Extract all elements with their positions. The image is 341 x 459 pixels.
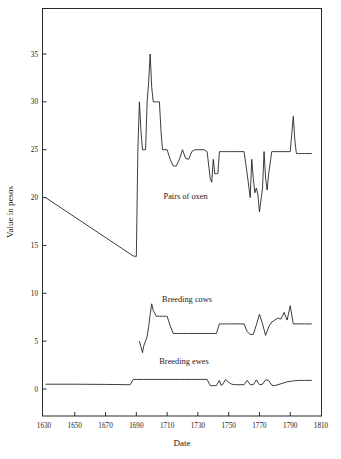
line-chart-canvas: 05101520253035 1630165016701690171017301… (0, 0, 341, 459)
x-tick-label: 1650 (68, 422, 83, 430)
y-tick-label: 10 (31, 290, 39, 298)
x-axis-title: Date (174, 438, 191, 448)
series-label-breeding-cows: Breeding cows (162, 295, 212, 304)
x-tick-label: 1730 (191, 422, 206, 430)
series-label-pairs-of-oxen: Pairs of oxen (163, 192, 208, 201)
x-tick-label: 1630 (37, 422, 52, 430)
y-tick-label: 30 (31, 98, 39, 106)
series-label-breeding-ewes: Breeding ewes (159, 357, 209, 366)
y-tick-label: 0 (34, 386, 38, 394)
x-tick-label: 1790 (283, 422, 298, 430)
chart-background (0, 0, 341, 459)
x-tick-label: 1750 (221, 422, 236, 430)
y-tick-label: 5 (34, 338, 38, 346)
x-tick-label: 1810 (314, 422, 329, 430)
y-axis-title: Value in pesos (5, 186, 15, 238)
x-tick-label: 1670 (98, 422, 113, 430)
x-tick-label: 1690 (129, 422, 144, 430)
chart-figure: 05101520253035 1630165016701690171017301… (0, 0, 341, 459)
y-tick-label: 20 (31, 194, 39, 202)
y-tick-label: 35 (31, 51, 39, 59)
y-tick-label: 15 (31, 242, 39, 250)
x-tick-label: 1710 (160, 422, 175, 430)
x-tick-label: 1770 (252, 422, 267, 430)
y-tick-label: 25 (31, 146, 39, 154)
